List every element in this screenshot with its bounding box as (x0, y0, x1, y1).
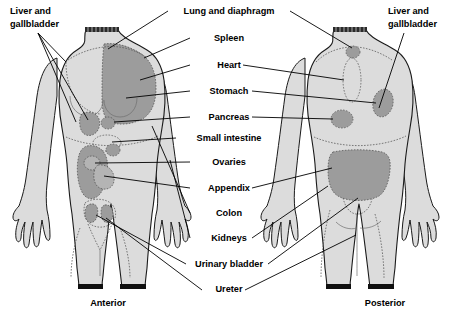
right-side-label: Liver and gallbladder (388, 6, 437, 29)
label-lung-and-diaphragm: Lung and diaphragm (184, 6, 275, 16)
anterior-figure: Anterior (13, 27, 191, 308)
anterior-bladder-organ-right (101, 205, 113, 223)
posterior-pancreas-organ (331, 110, 353, 128)
label-appendix: Appendix (208, 183, 251, 193)
posterior-lung-diaphragm-organ (346, 46, 360, 58)
leader-spleen (144, 38, 190, 58)
anterior-bladder-organ-left (85, 204, 98, 223)
anterior-left-ankle-band (78, 284, 103, 289)
label-liver-gallbladder-left-line1: Liver and (10, 6, 51, 16)
label-kidneys: Kidneys (211, 233, 247, 243)
label-pancreas: Pancreas (209, 112, 250, 122)
label-liver-gallbladder-left-line2: gallbladder (10, 19, 59, 29)
posterior-left-arm (261, 58, 305, 248)
label-spleen: Spleen (214, 33, 245, 43)
anterior-left-arm (13, 58, 57, 248)
referred-pain-diagram: Anterior (0, 0, 457, 316)
posterior-right-ankle-band (368, 284, 394, 289)
label-stomach: Stomach (210, 86, 249, 96)
posterior-caption: Posterior (365, 298, 406, 308)
anterior-caption: Anterior (90, 298, 126, 308)
anterior-pancreas-organ (101, 117, 115, 129)
label-colon: Colon (216, 208, 242, 218)
label-heart: Heart (217, 60, 241, 70)
label-ureter: Ureter (215, 284, 242, 294)
anterior-collar (85, 27, 119, 32)
label-liver-gallbladder-right-line2: gallbladder (388, 19, 437, 29)
label-liver-gallbladder-right-line1: Liver and (388, 6, 429, 16)
label-small-intestine: Small intestine (197, 133, 262, 143)
left-side-label: Liver and gallbladder (10, 6, 59, 29)
label-urinary-bladder: Urinary bladder (195, 259, 263, 269)
posterior-figure: Posterior (261, 27, 439, 308)
posterior-kidney-zone (328, 150, 390, 201)
posterior-collar (333, 27, 367, 32)
posterior-left-ankle-band (326, 284, 351, 289)
label-ovaries: Ovaries (212, 157, 246, 167)
center-label-column: Lung and diaphragm Spleen Heart Stomach … (184, 6, 275, 294)
anterior-right-ankle-band (120, 284, 146, 289)
diagram-canvas: Anterior (0, 0, 457, 316)
anterior-right-ovary-organ (106, 144, 120, 156)
